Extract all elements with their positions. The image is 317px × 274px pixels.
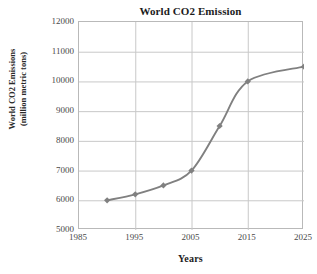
y-axis-tick-label: 10000 — [38, 76, 74, 85]
data-point-markers: 1990: 60001995: 62002000: 65002005: 7000… — [104, 63, 304, 203]
x-axis-tick-labels: 19851995200520152025 — [78, 233, 303, 245]
y-axis-tick-labels: 50006000700080009000100001100012000 — [38, 21, 74, 229]
plot-area: 1990: 60001995: 62002000: 65002005: 7000… — [78, 21, 303, 229]
y-axis-tick-label: 11000 — [38, 46, 74, 55]
x-axis-tick-label: 1985 — [58, 233, 98, 242]
x-axis-tick-label: 2005 — [171, 233, 211, 242]
x-axis-tick-label: 1995 — [114, 233, 154, 242]
y-axis-tick-label: 6000 — [38, 195, 74, 204]
y-axis-title-line2: (million metric tons) — [18, 15, 29, 163]
data-point-marker: 1995: 6200 — [132, 191, 138, 197]
y-axis-tick-label: 7000 — [38, 165, 74, 174]
data-series-line — [107, 67, 304, 201]
chart-title: World CO2 Emission — [78, 5, 303, 17]
x-axis-tick-label: 2015 — [227, 233, 267, 242]
chart-figure: World CO2 Emission World CO2 Emissions (… — [0, 0, 317, 274]
x-axis-title: Years — [78, 253, 303, 264]
y-axis-tick-label: 12000 — [38, 17, 74, 26]
data-point-marker: 2000: 6500 — [160, 182, 166, 188]
y-axis-tick-label: 8000 — [38, 135, 74, 144]
vertical-gridlines — [136, 22, 249, 230]
y-axis-tick-label: 9000 — [38, 106, 74, 115]
y-axis-title: World CO2 Emissions (million metric tons… — [7, 15, 29, 163]
y-axis-title-line1: World CO2 Emissions — [7, 15, 18, 163]
data-point-marker: 1990: 6000 — [104, 197, 110, 203]
plot-canvas: 1990: 60001995: 62002000: 65002005: 7000… — [79, 22, 304, 230]
x-axis-tick-label: 2025 — [283, 233, 317, 242]
data-point-marker: 2025: 10500 — [301, 63, 304, 69]
